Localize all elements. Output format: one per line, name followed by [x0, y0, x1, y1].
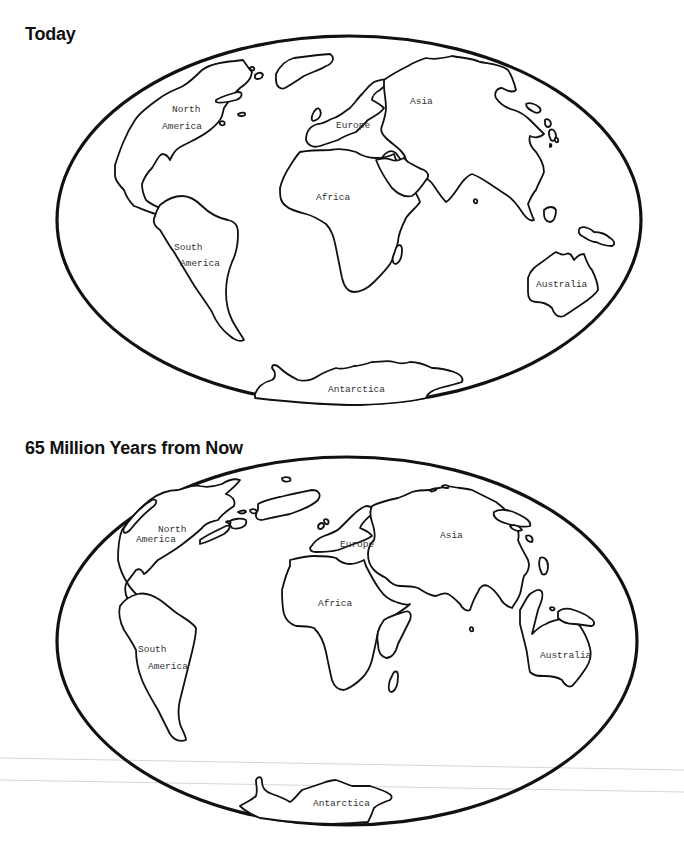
arctic-island: [282, 477, 291, 481]
label-australia: Australia: [540, 650, 592, 661]
japan-future: [539, 557, 548, 574]
british-isles-future: [318, 523, 324, 529]
label-asia: Asia: [440, 530, 463, 541]
label-europe: Europe: [340, 539, 375, 550]
continent-australia-future: [520, 590, 591, 687]
label-south-america: South: [138, 644, 167, 655]
scan-line: [0, 758, 684, 770]
world-map-future: North America South America Europe Asia …: [0, 0, 684, 846]
arctic-island: [200, 526, 230, 544]
island-future: [526, 535, 533, 542]
arctic-island: [442, 485, 449, 488]
continent-asia-future: [368, 486, 529, 611]
british-isles-future: [324, 519, 329, 524]
label-north-america: America: [136, 534, 176, 545]
label-africa: Africa: [318, 598, 353, 609]
island-future: [550, 607, 555, 610]
madagascar-future: [389, 672, 398, 693]
arctic-island: [238, 511, 246, 514]
arctic-island: [430, 489, 437, 492]
sri-lanka-future: [470, 627, 474, 631]
label-antarctica: Antarctica: [313, 798, 370, 809]
arctic-island: [226, 521, 231, 524]
greenland-future: [256, 490, 320, 520]
label-south-america: America: [148, 661, 188, 672]
